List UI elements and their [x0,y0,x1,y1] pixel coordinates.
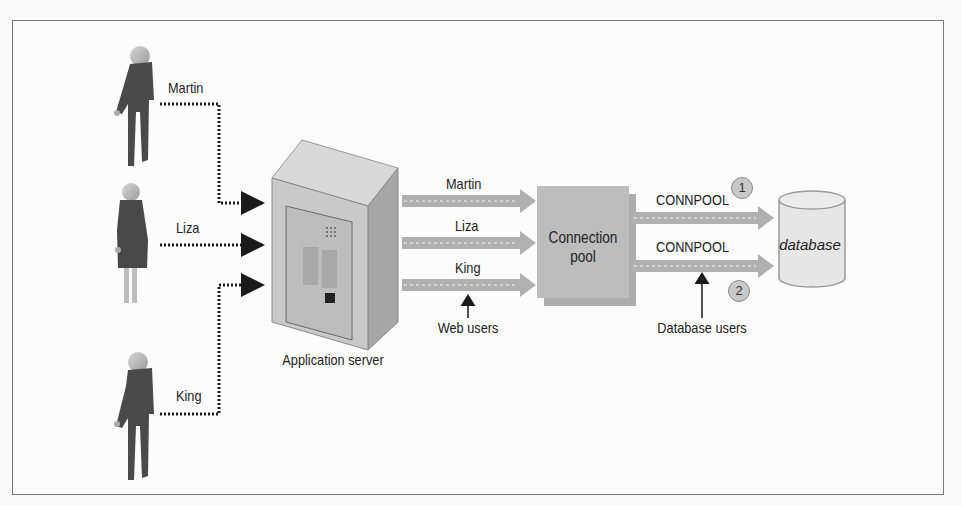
stream-liza [402,231,536,255]
stream-label-martin: Martin [446,176,481,192]
connector-martin [160,104,262,203]
person-icon-liza [115,183,148,303]
stream-connpool-2 [632,254,774,278]
web-users-caption: Web users [426,320,511,336]
person-icon-martin [114,46,154,166]
connection-pool-label: Connection pool [543,228,623,266]
stream-king [402,273,536,297]
user-label-liza: Liza [176,220,199,236]
badge-1: 1 [731,177,753,199]
connection-pool-line2: pool [543,247,623,266]
user-label-king: King [176,388,202,404]
stream-martin [402,189,536,213]
application-server-icon [272,140,398,350]
app-server-label: Application server [269,352,397,368]
user-label-martin: Martin [168,80,203,96]
db-streams [632,206,774,318]
connection-pool-line1: Connection [543,228,623,247]
stream-label-liza: Liza [455,218,478,234]
database-users-caption: Database users [649,320,754,336]
db-stream-label-1: CONNPOOL [656,192,729,208]
stream-connpool-1 [632,206,774,230]
db-stream-label-2: CONNPOOL [656,239,729,255]
web-user-streams [402,189,536,318]
stream-label-king: King [455,260,481,276]
database-label: database [770,236,850,253]
person-icon-king [114,352,154,480]
badge-2: 2 [728,280,750,302]
diagram-canvas [0,0,962,506]
